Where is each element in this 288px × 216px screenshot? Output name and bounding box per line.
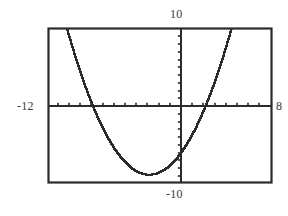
y-min-label: -10: [166, 188, 183, 200]
x-max-label: 8: [276, 100, 282, 112]
graphing-calculator-screen: [0, 0, 288, 216]
y-max-label: 10: [170, 8, 183, 20]
x-min-label: -12: [17, 100, 34, 112]
